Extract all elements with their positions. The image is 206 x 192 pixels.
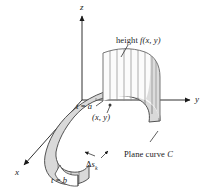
point-xy-dot <box>109 104 112 107</box>
delta-s-arrow-right <box>101 151 108 158</box>
t-end-eq: = <box>53 175 62 185</box>
ta-leader <box>96 101 103 106</box>
point-xy-label: (x, y) <box>92 113 110 122</box>
t-start-eq: = <box>78 101 87 111</box>
plane-curve-label: Plane curve C <box>124 150 173 159</box>
delta-s-arrow-left <box>85 152 95 156</box>
t-start-value: a <box>88 101 92 111</box>
y-axis-label: y <box>195 95 199 104</box>
plane-curve-name: C <box>167 149 173 159</box>
delta-s-label: Δsk <box>86 160 98 171</box>
t-end-value: b <box>63 175 67 185</box>
line-integral-figure: z y x height f(x, y) t = a (x, y) t = b … <box>0 0 206 192</box>
figure-canvas <box>0 0 206 192</box>
x-axis-label: x <box>15 168 19 177</box>
delta-s-measure <box>85 151 108 158</box>
height-label: height f(x, y) <box>116 36 161 45</box>
height-label-prefix: height <box>116 35 140 45</box>
ribbon-top-edge <box>56 96 150 172</box>
t-end-label: t = b <box>51 176 67 185</box>
delta-s-subscript: k <box>95 165 98 171</box>
height-label-args: (x, y) <box>143 35 161 45</box>
t-start-label: t = a <box>76 102 92 111</box>
z-axis-label: z <box>80 3 84 12</box>
plane-curve-leader <box>150 131 158 142</box>
plane-curve-text: Plane curve <box>124 149 167 159</box>
